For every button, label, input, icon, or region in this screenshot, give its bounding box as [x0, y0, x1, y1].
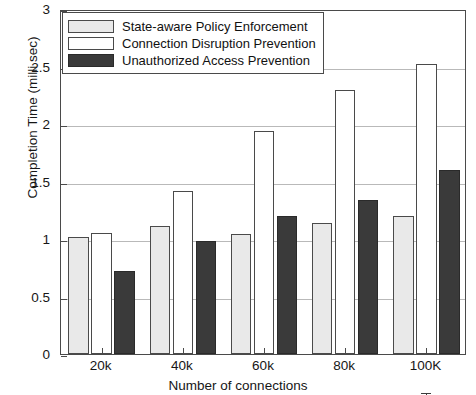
legend-label: State-aware Policy Enforcement [122, 20, 308, 33]
x-tick-label: 40k [171, 359, 193, 373]
x-tick-mark [102, 348, 103, 354]
x-tick-mark [264, 348, 265, 354]
y-tick-mark [61, 184, 67, 185]
x-tick-mark [183, 348, 184, 354]
x-tick-label: 60k [252, 359, 274, 373]
legend-label: Unauthorized Access Prevention [122, 54, 310, 67]
x-tick-label: 20k [90, 359, 112, 373]
x-tick-mark [345, 348, 346, 354]
y-tick-mark [61, 241, 67, 242]
legend-item: Connection Disruption Prevention [68, 35, 316, 51]
gridline [61, 126, 465, 127]
bar [439, 170, 460, 354]
bar [393, 216, 414, 354]
legend-item: Unauthorized Access Prevention [68, 52, 316, 68]
chart-legend: State-aware Policy EnforcementConnection… [62, 12, 324, 74]
x-tick-label: 100K [410, 359, 442, 373]
bar [416, 64, 437, 354]
bar [68, 237, 89, 354]
legend-swatch-icon [68, 54, 114, 67]
legend-label: Connection Disruption Prevention [122, 37, 316, 50]
y-tick-mark [61, 299, 67, 300]
x-tick-mark [426, 348, 427, 354]
y-tick-label: 1.5 [31, 176, 50, 190]
y-axis-tick-labels: 00.511.522.53 [0, 0, 58, 395]
y-tick-label: 1 [42, 233, 50, 247]
bar [150, 226, 171, 354]
bar [358, 200, 379, 354]
bar [91, 233, 112, 354]
bar-chart-figure: Completion Time (milli sec) 00.511.522.5… [0, 0, 476, 395]
y-tick-mark [61, 356, 67, 357]
bar [196, 241, 217, 354]
y-tick-mark [61, 126, 67, 127]
bar [312, 223, 333, 354]
bar [335, 90, 356, 355]
bar [277, 216, 298, 354]
bar [254, 131, 275, 354]
y-tick-label: 0 [42, 348, 50, 362]
legend-item: State-aware Policy Enforcement [68, 18, 316, 34]
bar [173, 191, 194, 354]
bar [114, 271, 135, 354]
y-tick-label: 0.5 [31, 291, 50, 305]
y-tick-label: 2 [42, 118, 50, 132]
x-tick-label: 80k [333, 359, 355, 373]
bar [231, 234, 252, 354]
legend-swatch-icon [68, 37, 114, 50]
legend-swatch-icon [68, 20, 114, 33]
y-tick-label: 2.5 [31, 61, 50, 75]
y-tick-label: 3 [42, 3, 50, 17]
x-axis-title: Number of connections [0, 378, 476, 393]
